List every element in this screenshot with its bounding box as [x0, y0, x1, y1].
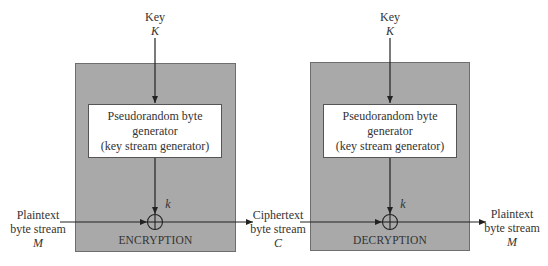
decryption-keystream-symbol: k [397, 197, 409, 211]
encryption-key-label: Key K [135, 10, 175, 38]
encryption-keystream-symbol: k [162, 197, 174, 211]
plaintext-output-label: Plaintext byte stream M [480, 207, 544, 249]
key-text: Key [135, 10, 175, 24]
label-line-1: Plaintext [8, 208, 68, 222]
label-line-1: Ciphertext [247, 208, 309, 222]
key-text: Key [370, 10, 410, 24]
key-symbol: K [135, 24, 175, 38]
plaintext-symbol: M [8, 236, 68, 250]
xor-icon [383, 215, 398, 230]
encryption-title: ENCRYPTION [75, 234, 236, 246]
decryption-title: DECRYPTION [310, 234, 470, 246]
plaintext-input-label: Plaintext byte stream M [8, 208, 68, 250]
label-line-2: byte stream [247, 222, 309, 236]
ciphertext-symbol: C [247, 236, 309, 250]
ciphertext-label: Ciphertext byte stream C [247, 208, 309, 250]
plaintext-symbol: M [480, 235, 544, 249]
label-line-1: Plaintext [480, 207, 544, 221]
label-line-2: byte stream [8, 222, 68, 236]
key-symbol: K [370, 24, 410, 38]
label-line-2: byte stream [480, 221, 544, 235]
xor-icon [148, 215, 163, 230]
decryption-key-label: Key K [370, 10, 410, 38]
